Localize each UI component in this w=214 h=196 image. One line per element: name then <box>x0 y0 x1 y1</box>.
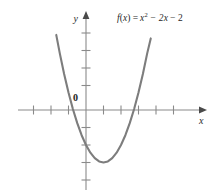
x-axis-arrow-icon <box>199 107 207 114</box>
function-formula: f(x) = x2 − 2x − 2 <box>117 13 183 23</box>
parabola-curve <box>56 35 151 163</box>
origin-label: 0 <box>73 92 78 103</box>
graph-figure: y x 0 f(x) = x2 − 2x − 2 <box>0 0 214 196</box>
formula-term3: − 2 <box>170 13 183 23</box>
formula-close-paren: ) <box>127 13 130 23</box>
formula-equals: = <box>133 13 138 23</box>
formula-term1-exponent: 2 <box>144 11 147 18</box>
formula-term2: − 2x <box>150 13 168 23</box>
y-axis-label: y <box>73 13 79 24</box>
x-axis-label: x <box>198 115 204 126</box>
y-axis-arrow-icon <box>83 11 90 19</box>
coordinate-plane: y x 0 <box>0 0 214 196</box>
